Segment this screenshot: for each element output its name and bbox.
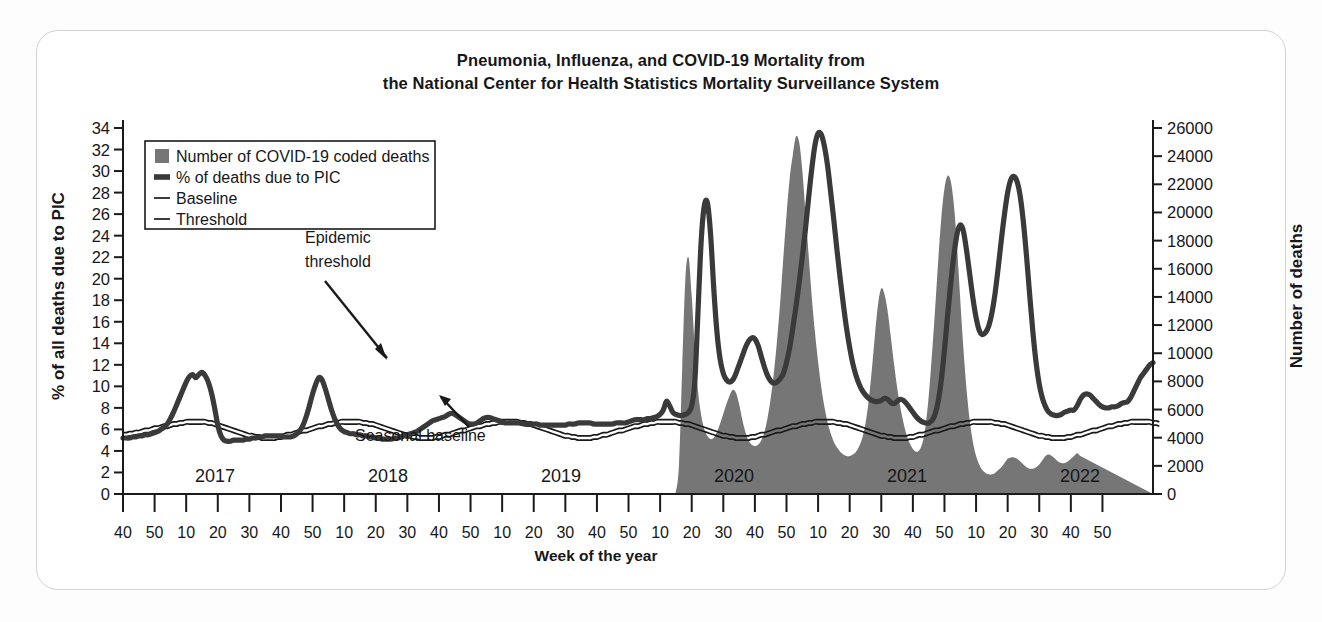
x-tick-label: 30 bbox=[556, 524, 574, 541]
chart-svg: 0246810121416182022242628303234020004000… bbox=[37, 31, 1287, 591]
x-tick-label: 30 bbox=[872, 524, 890, 541]
x-tick-label: 10 bbox=[967, 524, 985, 541]
seasonal-baseline-label: Seasonal baseline bbox=[355, 427, 486, 444]
year-label-2021: 2021 bbox=[887, 466, 927, 486]
y-tick-label-right: 26000 bbox=[1167, 119, 1213, 137]
x-tick-label: 50 bbox=[304, 524, 322, 541]
legend-label-0: Number of COVID-19 coded deaths bbox=[176, 148, 429, 165]
y-tick-label-left: 16 bbox=[92, 313, 110, 331]
x-tick-label: 10 bbox=[809, 524, 827, 541]
page-root: Pneumonia, Influenza, and COVID-19 Morta… bbox=[0, 0, 1322, 622]
y-tick-label-left: 32 bbox=[92, 141, 110, 159]
x-tick-label: 50 bbox=[1094, 524, 1112, 541]
y-tick-label-left: 10 bbox=[92, 377, 110, 395]
legend-label-3: Threshold bbox=[176, 211, 247, 228]
x-tick-label: 50 bbox=[620, 524, 638, 541]
x-tick-label: 40 bbox=[272, 524, 290, 541]
x-tick-label: 30 bbox=[714, 524, 732, 541]
y-tick-label-right: 22000 bbox=[1167, 175, 1213, 193]
chart-card: Pneumonia, Influenza, and COVID-19 Morta… bbox=[36, 30, 1286, 590]
year-label-2020: 2020 bbox=[714, 466, 754, 486]
y-tick-label-right: 8000 bbox=[1167, 372, 1204, 390]
y-tick-label-left: 0 bbox=[101, 485, 110, 503]
y-tick-label-right: 4000 bbox=[1167, 429, 1204, 447]
y-tick-label-left: 20 bbox=[92, 270, 110, 288]
y-tick-label-left: 6 bbox=[101, 420, 110, 438]
y-tick-label-right: 24000 bbox=[1167, 147, 1213, 165]
x-tick-label: 30 bbox=[240, 524, 258, 541]
x-tick-label: 50 bbox=[146, 524, 164, 541]
x-tick-label: 40 bbox=[746, 524, 764, 541]
y-tick-label-right: 20000 bbox=[1167, 203, 1213, 221]
y-tick-label-right: 18000 bbox=[1167, 232, 1213, 250]
year-label-2017: 2017 bbox=[195, 466, 235, 486]
y-tick-label-left: 22 bbox=[92, 248, 110, 266]
year-label-2018: 2018 bbox=[368, 466, 408, 486]
x-tick-label: 40 bbox=[1062, 524, 1080, 541]
x-tick-label: 10 bbox=[335, 524, 353, 541]
x-tick-label: 10 bbox=[177, 524, 195, 541]
legend-swatch-covid-deaths bbox=[155, 149, 169, 163]
y-tick-label-right: 12000 bbox=[1167, 316, 1213, 334]
x-tick-label: 20 bbox=[841, 524, 859, 541]
y-tick-label-right: 0 bbox=[1167, 485, 1176, 503]
x-tick-label: 20 bbox=[683, 524, 701, 541]
y-tick-label-left: 28 bbox=[92, 184, 110, 202]
y-tick-label-left: 8 bbox=[101, 399, 110, 417]
y-tick-label-right: 16000 bbox=[1167, 260, 1213, 278]
x-tick-label: 40 bbox=[588, 524, 606, 541]
y-tick-label-left: 4 bbox=[101, 442, 110, 460]
x-tick-label: 30 bbox=[1030, 524, 1048, 541]
x-tick-label: 40 bbox=[430, 524, 448, 541]
y-tick-label-right: 10000 bbox=[1167, 344, 1213, 362]
x-tick-label: 20 bbox=[525, 524, 543, 541]
x-tick-label: 40 bbox=[114, 524, 132, 541]
y-axis-right-title: Number of deaths bbox=[1287, 136, 1307, 456]
legend-label-2: Baseline bbox=[176, 190, 237, 207]
year-label-2019: 2019 bbox=[541, 466, 581, 486]
epidemic-threshold-label-line2: threshold bbox=[305, 253, 371, 270]
x-tick-label: 40 bbox=[904, 524, 922, 541]
y-tick-label-right: 14000 bbox=[1167, 288, 1213, 306]
x-tick-label: 20 bbox=[367, 524, 385, 541]
x-tick-label: 50 bbox=[778, 524, 796, 541]
y-tick-label-right: 6000 bbox=[1167, 401, 1204, 419]
x-tick-label: 20 bbox=[999, 524, 1017, 541]
x-tick-label: 10 bbox=[651, 524, 669, 541]
y-tick-label-left: 18 bbox=[92, 291, 110, 309]
y-tick-label-left: 2 bbox=[101, 463, 110, 481]
x-tick-label: 50 bbox=[462, 524, 480, 541]
y-tick-label-left: 24 bbox=[92, 227, 110, 245]
y-tick-label-left: 34 bbox=[92, 119, 110, 137]
year-label-2022: 2022 bbox=[1060, 466, 1100, 486]
legend-label-1: % of deaths due to PIC bbox=[176, 169, 341, 186]
y-tick-label-left: 26 bbox=[92, 205, 110, 223]
epidemic-threshold-label-line1: Epidemic bbox=[305, 229, 371, 246]
x-tick-label: 20 bbox=[209, 524, 227, 541]
x-tick-label: 30 bbox=[398, 524, 416, 541]
x-tick-label: 10 bbox=[493, 524, 511, 541]
y-tick-label-left: 12 bbox=[92, 356, 110, 374]
chart-area: % of all deaths due to PIC Number of dea… bbox=[37, 31, 1287, 591]
y-tick-label-right: 2000 bbox=[1167, 457, 1204, 475]
x-tick-label: 50 bbox=[936, 524, 954, 541]
y-tick-label-left: 30 bbox=[92, 162, 110, 180]
y-tick-label-left: 14 bbox=[92, 334, 110, 352]
